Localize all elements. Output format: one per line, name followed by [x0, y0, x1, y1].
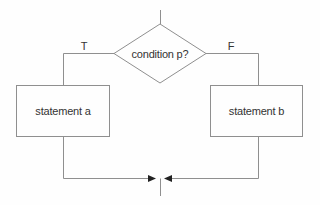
statement-b-exit-connector [172, 137, 259, 179]
statement-b-node: statement b [210, 85, 303, 137]
flowchart-canvas: condition p? T F statement a statement b [0, 0, 320, 205]
true-branch-label: T [76, 40, 92, 52]
statement-a-node: statement a [16, 85, 110, 137]
merge-arrowhead-right [164, 175, 172, 182]
false-branch-label: F [223, 40, 239, 52]
true-branch-connector [64, 54, 115, 86]
statement-b-label: statement b [229, 105, 284, 117]
statement-a-label: statement a [35, 105, 90, 117]
statement-a-exit-connector [64, 137, 149, 179]
merge-arrowhead-left [148, 175, 156, 182]
false-branch-connector [206, 54, 259, 86]
condition-label: condition p? [114, 24, 206, 83]
